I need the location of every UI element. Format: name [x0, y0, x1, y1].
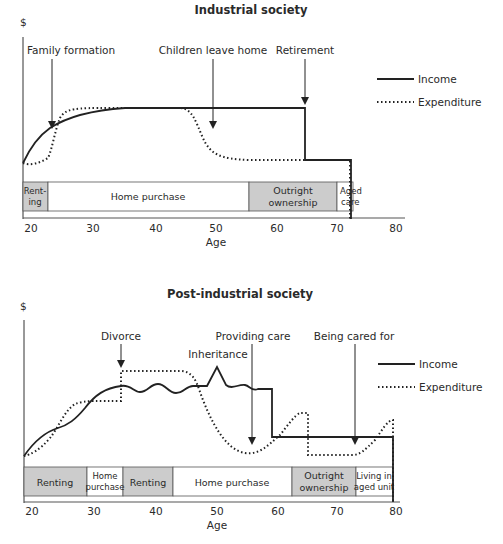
event-inheritance: Inheritance: [188, 348, 248, 360]
svg-text:Retirement: Retirement: [276, 44, 334, 56]
legend: Income Expenditure: [378, 358, 483, 393]
legend-income-label: Income: [418, 73, 457, 85]
svg-text:Children leave home: Children leave home: [159, 44, 268, 56]
y-axis-label: $: [20, 300, 27, 312]
svg-text:Family formation: Family formation: [27, 44, 115, 56]
panel-title: Post-industrial society: [167, 287, 313, 301]
event-retirement: Retirement: [276, 44, 334, 105]
svg-text:20: 20: [24, 222, 37, 234]
life-cycle-diagram: Industrial society $ Rent- ing Home purc…: [0, 0, 503, 544]
band-label: Outright: [304, 470, 344, 481]
band-label: Home purchase: [195, 477, 270, 488]
band-label: Outright: [273, 185, 313, 196]
band-label: Home purchase: [111, 191, 186, 202]
housing-bands: Renting Home purchase Renting Home purch…: [24, 467, 395, 496]
x-axis-label: Age: [207, 519, 227, 531]
post-industrial-society-panel: Post-industrial society $ Renting Home p…: [20, 287, 483, 531]
band-label: Home: [92, 471, 117, 481]
event-children-leave-home: Children leave home: [159, 44, 268, 129]
industrial-society-panel: Industrial society $ Rent- ing Home purc…: [20, 3, 482, 248]
legend-income-label: Income: [419, 358, 458, 370]
band-label: Rent-: [24, 186, 47, 196]
x-axis-ticks: 20 30 40 50 60 70 80: [24, 222, 402, 234]
svg-text:30: 30: [87, 505, 100, 517]
band-label: ownership: [269, 197, 318, 208]
svg-text:50: 50: [210, 505, 223, 517]
legend: Income Expenditure: [377, 73, 482, 108]
svg-text:80: 80: [389, 222, 402, 234]
arrowhead-icon: [209, 121, 217, 129]
event-divorce: Divorce: [101, 330, 141, 368]
legend-expenditure-label: Expenditure: [418, 96, 482, 108]
svg-text:40: 40: [149, 505, 162, 517]
band-label: ing: [28, 197, 41, 207]
band-label: Renting: [37, 477, 73, 488]
band-label: Living in: [356, 471, 392, 481]
svg-text:Inheritance: Inheritance: [188, 348, 248, 360]
arrowhead-icon: [301, 97, 309, 105]
svg-text:70: 70: [330, 222, 343, 234]
svg-text:80: 80: [389, 505, 402, 517]
arrowhead-icon: [117, 360, 125, 368]
band-label: purchase: [85, 482, 124, 492]
y-axis-label: $: [20, 16, 27, 28]
arrowhead-icon: [351, 437, 359, 445]
svg-text:60: 60: [271, 505, 284, 517]
svg-text:20: 20: [25, 505, 38, 517]
x-axis-label: Age: [206, 236, 226, 248]
svg-text:Divorce: Divorce: [101, 330, 141, 342]
panel-title: Industrial society: [195, 3, 308, 17]
housing-bands: Rent- ing Home purchase Outright ownersh…: [23, 182, 362, 211]
x-axis-ticks: 20 30 40 50 60 70 80: [25, 505, 402, 517]
svg-text:50: 50: [209, 222, 222, 234]
svg-text:Being cared for: Being cared for: [314, 330, 395, 342]
arrowhead-icon: [248, 437, 256, 445]
svg-text:Providing care: Providing care: [216, 330, 291, 342]
svg-text:30: 30: [86, 222, 99, 234]
band-label: aged unit: [354, 482, 395, 492]
svg-text:70: 70: [330, 505, 343, 517]
event-family-formation: Family formation: [27, 44, 115, 129]
legend-expenditure-label: Expenditure: [419, 381, 483, 393]
svg-text:60: 60: [270, 222, 283, 234]
band-label: ownership: [300, 482, 349, 493]
svg-text:40: 40: [149, 222, 162, 234]
band-label: Renting: [130, 477, 166, 488]
